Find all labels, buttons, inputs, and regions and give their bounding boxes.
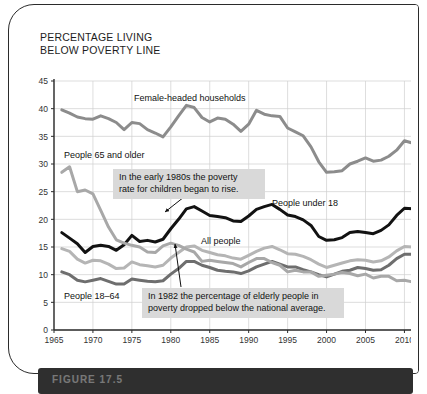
svg-text:25: 25 [39,187,49,197]
svg-text:1970: 1970 [83,335,102,345]
annotation-arrows [165,197,184,287]
annotation-callout-elderly: In 1982 the percentage of elderly people… [142,288,344,318]
series-label-female-headed-households: Female-headed households [134,93,246,103]
series-label-people-18-64: People 18–64 [64,291,120,301]
svg-text:1965: 1965 [45,335,64,345]
series-label-people-65-and-older: People 65 and older [64,150,145,160]
svg-text:35: 35 [39,132,49,142]
svg-text:1980: 1980 [161,335,180,345]
svg-text:2010: 2010 [395,335,414,345]
svg-text:40: 40 [39,104,49,114]
svg-text:15: 15 [39,242,49,252]
x-axis-tick-labels: 1965197019751980198519901995200020052010 [45,335,415,345]
series-label-people-under-18: People under 18 [272,198,338,208]
svg-text:1985: 1985 [200,335,219,345]
figure-caption-label: FIGURE 17.5 [52,374,123,385]
series-label-all-people: All people [201,236,241,246]
figure-card: PERCENTAGE LIVING BELOW POVERTY LINE 051… [8,4,419,374]
svg-text:1995: 1995 [278,335,297,345]
svg-text:10: 10 [39,270,49,280]
annotation-callout-children: In the early 1980s the poverty rate for … [113,169,265,199]
svg-text:1975: 1975 [122,335,141,345]
figure-caption-bar: FIGURE 17.5 [38,368,413,394]
svg-text:20: 20 [39,215,49,225]
svg-text:0: 0 [43,325,48,335]
svg-text:5: 5 [43,298,48,308]
svg-text:45: 45 [39,76,49,86]
svg-text:30: 30 [39,159,49,169]
y-axis-tick-labels: 051015202530354045 [39,76,49,335]
svg-text:2005: 2005 [356,335,375,345]
svg-text:1990: 1990 [239,335,258,345]
svg-text:2000: 2000 [317,335,336,345]
